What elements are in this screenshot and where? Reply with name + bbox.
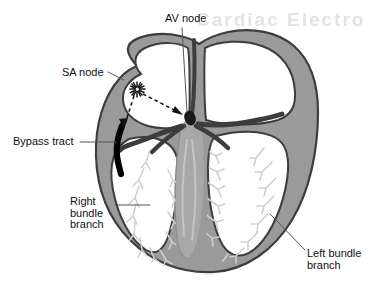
myocardium (96, 30, 318, 272)
label-sa-node: SA node (62, 67, 104, 79)
label-left-bundle-branch: Left bundle branch (307, 248, 361, 271)
heart-conduction-diagram: Cardiac Electro (0, 0, 376, 286)
label-bypass-tract: Bypass tract (13, 136, 74, 148)
label-right-bundle-branch: Right bundle branch (70, 196, 104, 231)
label-av-node: AV node (165, 13, 206, 25)
